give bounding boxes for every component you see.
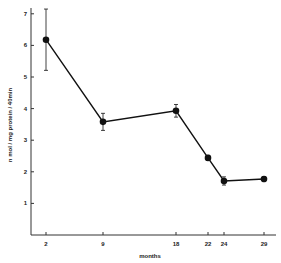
y-tick-label: 4 <box>24 106 28 112</box>
x-tick-label: 9 <box>101 241 105 247</box>
data-point-marker <box>100 119 107 126</box>
data-point-marker <box>173 108 180 115</box>
x-tick-label: 24 <box>221 241 228 247</box>
x-tick-label: 22 <box>205 241 212 247</box>
y-tick-label: 6 <box>24 42 28 48</box>
y-tick-label: 2 <box>24 169 28 175</box>
data-point-marker <box>221 178 228 185</box>
y-axis-title: n mol / mg protein / 40min <box>7 87 13 162</box>
data-point-marker <box>43 36 50 43</box>
data-line <box>46 40 264 181</box>
data-series <box>43 9 268 185</box>
data-point-marker <box>205 155 212 162</box>
y-tick-label: 7 <box>24 11 28 17</box>
x-tick-label: 29 <box>261 241 268 247</box>
y-tick-label: 5 <box>24 74 28 80</box>
line-chart: 12345672918222429monthsn mol / mg protei… <box>0 0 281 263</box>
x-axis-title: months <box>139 253 161 259</box>
y-tick-label: 3 <box>24 137 28 143</box>
x-tick-label: 2 <box>44 241 48 247</box>
axes: 12345672918222429monthsn mol / mg protei… <box>7 8 276 259</box>
x-tick-label: 18 <box>173 241 180 247</box>
y-tick-label: 1 <box>24 200 28 206</box>
data-point-marker <box>261 176 268 183</box>
